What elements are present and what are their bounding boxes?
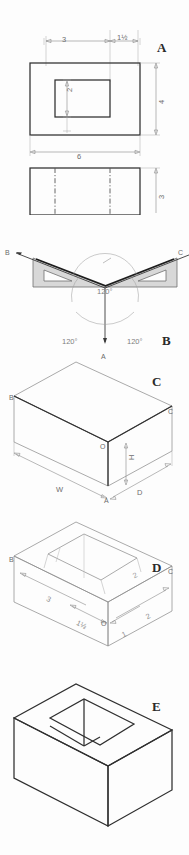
angle-label-right: 120° [127,330,143,348]
panel-a-graphic [0,0,189,215]
vertex-label-d-b: B [9,548,14,566]
dim-label-hole-height: 2 [58,88,76,92]
axis-label-c: C [178,241,183,259]
panel-letter-b: B [162,331,171,349]
axis-label-b: B [5,241,10,259]
dim-label-overall-width: 6 [77,145,81,163]
drawing-sheet: 3 1½ 2 4 6 3 A 120° 120° 120° B C A B [0,0,189,855]
dim-label-overall-height: 4 [150,100,168,104]
vertex-label-c-a: A [104,489,109,507]
dim-label-front-height: 3 [150,195,168,199]
angle-label-left: 120° [62,330,78,348]
panel-b-graphic [0,230,189,360]
dim-label-top-one-half: 1½ [117,26,127,44]
dim-label-top-3: 3 [62,28,66,46]
vertex-label-c-c: C [168,400,173,418]
panel-letter-d: D [152,558,161,576]
panel-letter-c: C [152,372,161,390]
dim-label-height: H [120,455,138,460]
angle-label-top: 120° [97,280,113,298]
dim-label-width: W [56,478,63,496]
vertex-label-c-b: B [9,386,14,404]
panel-letter-e: E [152,697,161,715]
vertex-label-d-c: C [168,560,173,578]
panel-d-graphic [0,512,189,672]
vertex-label-c-o: O [100,435,105,453]
panel-letter-a: A [157,38,166,56]
vertex-label-d-o: O [101,612,106,630]
dim-label-depth: D [137,481,142,499]
